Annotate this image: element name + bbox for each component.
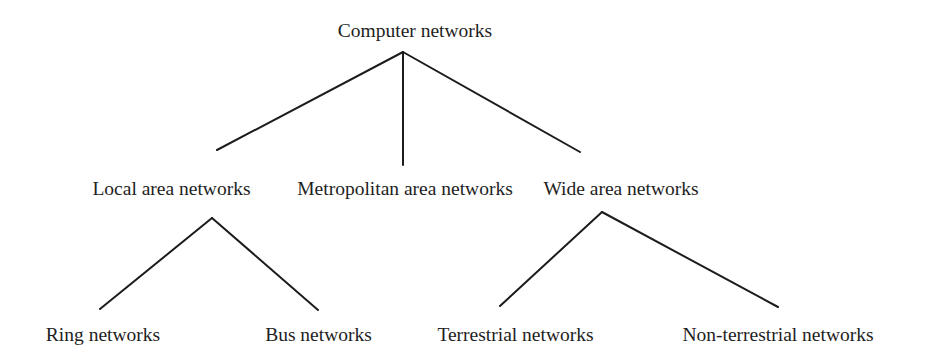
node-terrestrial-networks: Terrestrial networks bbox=[437, 324, 593, 345]
root-connectors bbox=[217, 52, 580, 165]
network-taxonomy-diagram: Computer networks Local area networks Me… bbox=[0, 0, 926, 358]
node-metropolitan-area-networks: Metropolitan area networks bbox=[297, 178, 513, 199]
node-wide-area-networks: Wide area networks bbox=[543, 178, 698, 199]
lan-connectors bbox=[100, 218, 318, 310]
edge-root-to-lan bbox=[217, 52, 403, 150]
node-local-area-networks: Local area networks bbox=[92, 178, 250, 199]
node-ring-networks: Ring networks bbox=[46, 324, 160, 345]
node-bus-networks: Bus networks bbox=[265, 324, 372, 345]
edge-lan-to-ring bbox=[100, 218, 212, 309]
node-computer-networks: Computer networks bbox=[338, 20, 492, 41]
edge-root-to-wan bbox=[403, 52, 580, 152]
edge-wan-to-non-terrestrial bbox=[602, 212, 778, 307]
edge-wan-to-terrestrial bbox=[500, 212, 602, 306]
wan-connectors bbox=[500, 212, 778, 307]
edge-lan-to-bus bbox=[212, 218, 318, 310]
node-non-terrestrial-networks: Non-terrestrial networks bbox=[682, 324, 873, 345]
